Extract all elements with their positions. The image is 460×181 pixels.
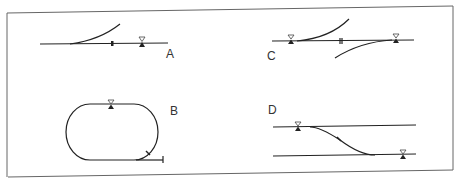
panel-c xyxy=(272,19,414,58)
panel-label-a: A xyxy=(166,47,174,61)
insulated-joint-icon xyxy=(111,41,114,46)
panel-d xyxy=(273,122,416,159)
diagram-canvas xyxy=(0,0,460,181)
panel-a xyxy=(40,24,168,47)
panel-b xyxy=(66,100,163,163)
panel-label-c: C xyxy=(267,49,276,63)
signal-icon xyxy=(139,37,145,47)
panel-label-d: D xyxy=(268,103,277,117)
signal-icon xyxy=(288,35,294,44)
panel-label-b: B xyxy=(170,104,178,118)
frame xyxy=(7,6,453,177)
signal-icon xyxy=(393,34,399,43)
